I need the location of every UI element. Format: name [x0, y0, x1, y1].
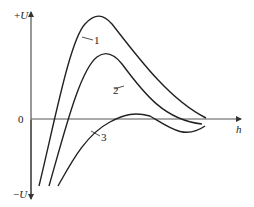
curve-1-label: 1 — [94, 34, 100, 46]
curve-3 — [58, 114, 205, 186]
diagram-canvas: +U −U 0 h 1 2 3 — [0, 0, 254, 207]
y-axis-bottom-label: −U — [13, 188, 28, 200]
h-axis-label: h — [236, 123, 242, 135]
curve-3-label: 3 — [101, 131, 107, 143]
curve-2 — [49, 53, 202, 186]
origin-label: 0 — [18, 113, 24, 125]
curve-2-label: 2 — [113, 84, 119, 96]
curve-1 — [39, 16, 206, 186]
y-axis-top-label: +U — [14, 9, 29, 21]
leader-1 — [82, 37, 93, 40]
